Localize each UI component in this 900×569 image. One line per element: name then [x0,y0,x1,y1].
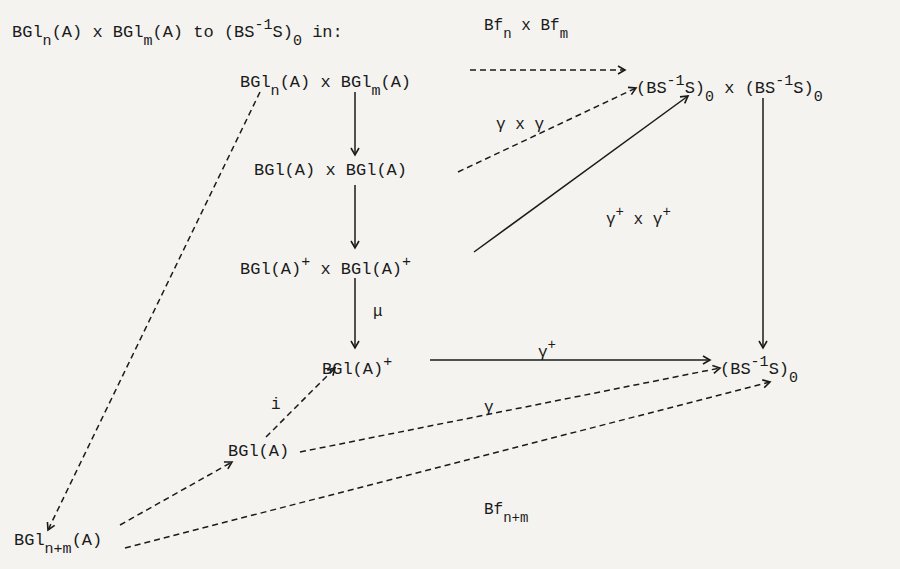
diagram-arrows [0,0,900,569]
arrow-gamma-x-gamma [458,88,636,172]
arrow-bf-n-plus-m [125,382,770,548]
arrow-to-bgl [120,462,232,525]
arrow-gamma [300,368,720,452]
arrow-i [266,368,335,437]
arrow-gamma-plus-x-gamma-plus [474,96,688,252]
